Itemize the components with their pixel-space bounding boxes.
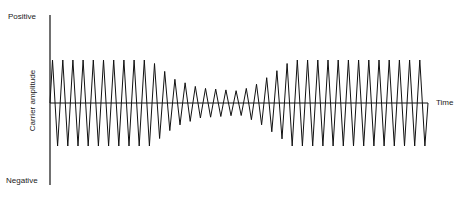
- carrier-wave-diagram: [0, 0, 461, 200]
